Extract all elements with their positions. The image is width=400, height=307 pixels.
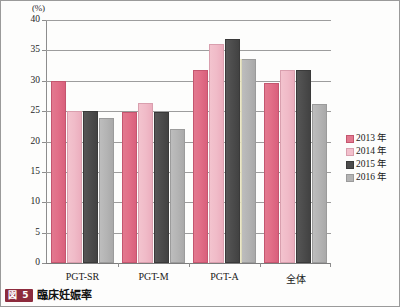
legend-item[interactable]: 2016 年 (346, 173, 387, 183)
bar-group (260, 20, 331, 263)
bar (51, 81, 66, 263)
plot-inner: 0510152025303540 PGT-SRPGT-MPGT-A全体 (46, 20, 331, 263)
y-tick-mark (42, 20, 46, 21)
y-tick-mark (42, 81, 46, 82)
legend-item[interactable]: 2014 年 (346, 147, 387, 157)
bar (312, 104, 327, 263)
bar (225, 39, 240, 263)
x-tick-mark (330, 263, 331, 267)
y-tick-label: 35 (31, 46, 41, 56)
legend-swatch-icon (346, 174, 354, 182)
bar (83, 111, 98, 263)
x-tick-label: PGT-M (138, 271, 168, 282)
bar (264, 83, 279, 263)
y-tick-label: 40 (31, 15, 41, 25)
y-tick-label: 30 (31, 76, 41, 86)
x-tick-label: 全体 (286, 271, 306, 286)
legend-label: 2016 年 (356, 173, 387, 183)
bar (122, 112, 137, 263)
bar (193, 70, 208, 263)
bar (99, 118, 114, 263)
y-tick-label: 5 (35, 228, 40, 238)
x-tick-mark (260, 263, 261, 267)
y-tick-label: 0 (35, 258, 40, 268)
legend-label: 2015 年 (356, 160, 387, 170)
y-tick-label: 25 (31, 106, 41, 116)
bar (280, 70, 295, 263)
y-tick-mark (42, 263, 46, 264)
y-tick-mark (42, 111, 46, 112)
bar-group (47, 20, 118, 263)
figure-panel: (%) 0510152025303540 PGT-SRPGT-MPGT-A全体 … (0, 0, 400, 307)
y-tick-label: 15 (31, 167, 41, 177)
y-tick-mark (42, 172, 46, 173)
y-tick-mark (42, 233, 46, 234)
legend-item[interactable]: 2013 年 (346, 134, 387, 144)
x-tick-label: PGT-A (210, 271, 239, 282)
y-tick-label: 10 (31, 198, 41, 208)
y-axis-unit-label: (%) (32, 3, 45, 13)
y-tick-label: 20 (31, 137, 41, 147)
legend-swatch-icon (346, 135, 354, 143)
y-tick-mark (42, 50, 46, 51)
legend-swatch-icon (346, 161, 354, 169)
bar (296, 70, 311, 263)
legend-swatch-icon (346, 148, 354, 156)
x-tick-label: PGT-SR (66, 271, 100, 282)
legend-label: 2013 年 (356, 134, 387, 144)
bar (154, 112, 169, 263)
x-tick-mark (189, 263, 190, 267)
bar (170, 129, 185, 263)
x-tick-mark (118, 263, 119, 267)
bar (138, 103, 153, 263)
bar-group (118, 20, 189, 263)
figure-caption: 図 5 臨床妊娠率 (5, 289, 92, 302)
legend-label: 2014 年 (356, 147, 387, 157)
plot-area: 0510152025303540 PGT-SRPGT-MPGT-A全体 (46, 20, 331, 263)
figure-caption-text: 臨床妊娠率 (37, 290, 92, 301)
bar (241, 59, 256, 263)
bar (67, 111, 82, 263)
y-tick-mark (42, 142, 46, 143)
legend: 2013 年2014 年2015 年2016 年 (346, 134, 387, 183)
y-tick-mark (42, 202, 46, 203)
figure-number-badge: 図 5 (5, 289, 33, 302)
bar-group (189, 20, 260, 263)
bar-groups (47, 20, 331, 263)
legend-item[interactable]: 2015 年 (346, 160, 387, 170)
bar (209, 44, 224, 263)
